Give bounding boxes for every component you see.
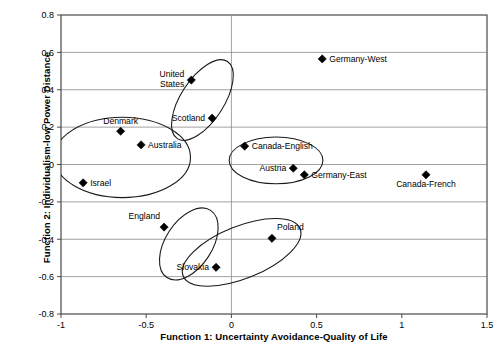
x-tick-label: 0 (229, 320, 234, 330)
diamond-marker (289, 164, 297, 172)
diamond-marker (79, 179, 87, 187)
data-point-label: Denmark (103, 116, 139, 126)
data-point-label: Australia (148, 140, 182, 150)
data-point-label: Austria (260, 163, 287, 173)
data-point[interactable]: Scotland (172, 113, 217, 123)
plot-canvas: 0.80.60.40.20-0.2-0.4-0.6-0.8-1-0.500.51… (0, 0, 504, 349)
diamond-marker (212, 263, 220, 271)
x-axis-label: Function 1: Uncertainty Avoidance-Qualit… (61, 331, 487, 342)
diamond-marker (268, 234, 276, 242)
y-tick-label: -0.8 (38, 309, 54, 319)
cluster-ellipse (159, 50, 245, 151)
scatter-plot-figure: Function 2: Individualism-low Power Dist… (0, 0, 504, 349)
data-point-label: Scotland (172, 113, 206, 123)
data-point-label: UnitedStates (160, 69, 185, 89)
data-point[interactable]: Canada-English (241, 141, 313, 151)
diamond-marker (241, 142, 249, 150)
data-point-label: Germany-East (311, 170, 367, 180)
data-point-label: Israel (90, 178, 111, 188)
diamond-marker (318, 55, 326, 63)
diamond-marker (137, 141, 145, 149)
data-point-label: England (129, 211, 161, 221)
diamond-marker (117, 127, 125, 135)
data-point[interactable]: UnitedStates (160, 69, 196, 89)
data-point-label: Canada-French (396, 179, 456, 189)
data-point-label: Germany-West (329, 54, 387, 64)
data-point[interactable]: Israel (79, 178, 111, 188)
data-point-label: Poland (277, 222, 304, 232)
x-tick-label: 1 (399, 320, 404, 330)
data-point-label: Canada-English (252, 141, 313, 151)
data-point[interactable]: England (129, 211, 169, 231)
diamond-marker (208, 114, 216, 122)
x-tick-label: -1 (57, 320, 65, 330)
x-tick-label: -0.5 (138, 320, 154, 330)
data-point[interactable]: Australia (137, 140, 182, 150)
data-point[interactable]: Canada-French (396, 171, 456, 189)
y-axis-label: Function 2: Individualism-low Power Dist… (41, 28, 52, 288)
data-point-label: Slovakia (177, 262, 210, 272)
data-point[interactable]: Germany-East (300, 170, 367, 180)
y-tick-label: 0.8 (41, 10, 54, 20)
diamond-marker (422, 171, 430, 179)
data-point[interactable]: Germany-West (318, 54, 387, 64)
diamond-marker (160, 223, 168, 231)
data-point[interactable]: Slovakia (177, 262, 221, 272)
x-tick-label: 1.5 (481, 320, 494, 330)
data-point[interactable]: Denmark (103, 116, 139, 135)
cluster-ellipse (173, 204, 310, 300)
x-tick-label: 0.5 (310, 320, 323, 330)
